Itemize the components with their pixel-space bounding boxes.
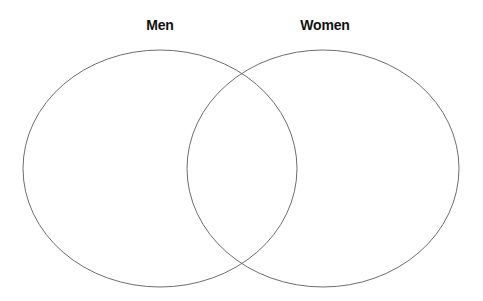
women-ellipse bbox=[187, 50, 459, 287]
men-ellipse bbox=[23, 50, 297, 287]
venn-diagram bbox=[0, 0, 483, 301]
